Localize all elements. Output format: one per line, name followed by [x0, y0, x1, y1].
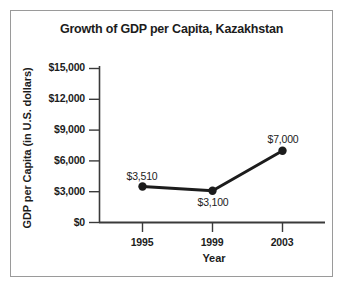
- data-label-1995: $3,510: [112, 170, 172, 182]
- x-tick-label-2003: 2003: [257, 236, 307, 248]
- data-point-1999: [208, 187, 216, 195]
- data-point-2003: [278, 147, 286, 155]
- x-tick-label-1995: 1995: [117, 236, 167, 248]
- y-tick-label-3000: $3,000: [29, 185, 85, 197]
- chart-figure: Growth of GDP per Capita, Kazakhstan $15…: [0, 0, 345, 291]
- y-tick-label-0: $0: [29, 216, 85, 228]
- x-tick-label-1999: 1999: [187, 236, 237, 248]
- y-tick-label-15000: $15,000: [29, 61, 85, 73]
- y-tick-label-9000: $9,000: [29, 123, 85, 135]
- y-axis-title: GDP per Capita (in U.S. dollars): [21, 63, 33, 233]
- data-label-2003: $7,000: [253, 133, 313, 145]
- data-point-1995: [138, 182, 146, 190]
- y-tick-label-6000: $6,000: [29, 154, 85, 166]
- data-label-1999: $3,100: [183, 196, 243, 208]
- y-tick-label-12000: $12,000: [29, 92, 85, 104]
- x-axis-title: Year: [100, 252, 328, 264]
